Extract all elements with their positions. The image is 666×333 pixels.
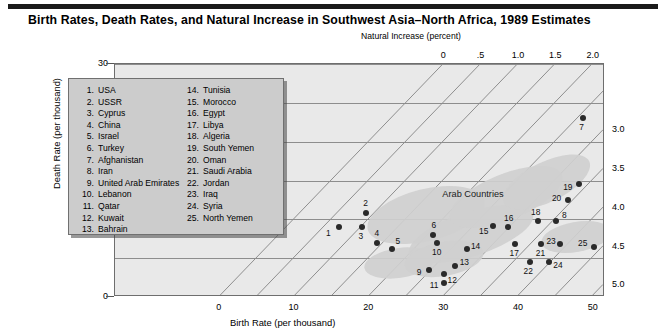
legend-item-number: 10.	[78, 189, 94, 201]
data-point[interactable]	[512, 241, 518, 247]
legend-item-label: United Arab Emirates	[98, 178, 179, 188]
data-point-label: 17	[510, 248, 519, 258]
data-point[interactable]	[535, 218, 541, 224]
legend-item-number: 1.	[78, 85, 94, 97]
legend-item-label: Afghanistan	[98, 155, 143, 165]
data-point[interactable]	[565, 197, 571, 203]
data-point[interactable]	[490, 223, 496, 229]
legend-item: 24.Syria	[183, 201, 254, 213]
data-point[interactable]	[527, 259, 533, 265]
legend-item: 9.United Arab Emirates	[78, 178, 179, 190]
data-point[interactable]	[591, 244, 597, 250]
title-rule	[8, 4, 658, 9]
data-point[interactable]	[538, 241, 544, 247]
legend-item: 16.Egypt	[183, 108, 254, 120]
arab-countries-annotation: Arab Countries	[442, 189, 503, 199]
y-tick-mark	[106, 63, 114, 64]
x-tick-label: 10	[279, 302, 309, 312]
data-point[interactable]	[441, 280, 447, 286]
legend-item: 18.Algeria	[183, 131, 254, 143]
natural-increase-axis-label: Natural Increase (percent)	[0, 31, 666, 41]
data-point[interactable]	[553, 218, 559, 224]
data-point-label: 11	[430, 280, 439, 290]
legend-item-label: Cyprus	[98, 108, 125, 118]
legend-item-number: 24.	[183, 201, 199, 213]
legend-item-number: 6.	[78, 143, 94, 155]
data-point-label: 9	[417, 267, 422, 277]
x-tick-label: 20	[353, 302, 383, 312]
top-tick-label: .5	[468, 50, 494, 60]
data-point[interactable]	[359, 224, 365, 230]
data-point-label: 3	[359, 231, 364, 241]
data-point[interactable]	[374, 240, 380, 246]
legend-item: 25.North Yemen	[183, 213, 254, 225]
data-point[interactable]	[452, 263, 458, 269]
data-point-label: 7	[579, 122, 584, 132]
right-tick-label: 5.0	[612, 279, 625, 289]
data-point[interactable]	[557, 241, 563, 247]
legend-item: 22.Jordan	[183, 178, 254, 190]
data-point[interactable]	[505, 224, 511, 230]
legend-item-label: Qatar	[98, 201, 120, 211]
data-point[interactable]	[576, 181, 582, 187]
data-point-label: 16	[504, 213, 513, 223]
data-point[interactable]	[389, 246, 395, 252]
data-point[interactable]	[336, 224, 342, 230]
data-point-label: 22	[524, 266, 533, 276]
legend-item-label: Syria	[203, 201, 223, 211]
chart-title: Birth Rates, Death Rates, and Natural In…	[28, 13, 591, 27]
legend-item-number: 14.	[183, 85, 199, 97]
data-point[interactable]	[546, 259, 552, 265]
legend-item: 15.Morocco	[183, 97, 254, 109]
top-tick-label: 1.5	[542, 50, 568, 60]
data-point-label: 8	[562, 210, 567, 220]
legend-item-number: 23.	[183, 189, 199, 201]
legend-item-label: Lebanon	[98, 189, 131, 199]
data-point-label: 23	[546, 236, 555, 246]
legend-item-number: 2.	[78, 97, 94, 109]
data-point-label: 14	[471, 241, 480, 251]
legend-item: 21.Saudi Arabia	[183, 166, 254, 178]
legend-item-label: China	[98, 120, 120, 130]
legend-item-label: Saudi Arabia	[203, 166, 252, 176]
legend-item: 13.Bahrain	[78, 224, 179, 236]
legend-item-number: 11.	[78, 201, 94, 213]
legend-item: 17.Libya	[183, 120, 254, 132]
legend-item-label: Algeria	[203, 131, 230, 141]
right-tick-label: 3.5	[612, 163, 625, 173]
legend-item-number: 21.	[183, 166, 199, 178]
data-point[interactable]	[464, 246, 470, 252]
legend-item-label: Tunisia	[203, 85, 230, 95]
legend-item-number: 8.	[78, 166, 94, 178]
data-point[interactable]	[430, 232, 436, 238]
data-point-label: 24	[553, 260, 562, 270]
data-point[interactable]	[441, 271, 447, 277]
top-tick-label: 2.0	[580, 50, 606, 60]
data-point[interactable]	[434, 240, 440, 246]
data-point[interactable]	[363, 210, 369, 216]
legend-item-label: Morocco	[203, 97, 236, 107]
natural-increase-axis-label-text: Natural Increase (percent)	[361, 31, 461, 41]
x-tick-label: 50	[578, 302, 608, 312]
diagonal-line	[592, 284, 603, 296]
x-tick-label: 0	[204, 302, 234, 312]
legend-item-label: USA	[98, 85, 116, 95]
legend-item-label: North Yemen	[203, 213, 253, 223]
legend-column-a: 1.USA2.USSR3.Cyprus4.China5.Israel6.Turk…	[78, 85, 179, 236]
legend-item: 5.Israel	[78, 131, 179, 143]
data-point-label: 19	[563, 182, 572, 192]
legend-item-label: Oman	[203, 155, 226, 165]
legend-item-label: South Yemen	[203, 143, 254, 153]
legend-item-label: Jordan	[203, 178, 229, 188]
legend-item-number: 20.	[183, 155, 199, 167]
data-point-label: 10	[432, 247, 441, 257]
legend-item: 1.USA	[78, 85, 179, 97]
legend-item-label: Turkey	[98, 143, 124, 153]
legend-item-number: 12.	[78, 213, 94, 225]
legend-item-number: 16.	[183, 108, 199, 120]
legend-item-label: Israel	[98, 131, 119, 141]
top-tick-label: 0	[430, 50, 456, 60]
data-point[interactable]	[426, 267, 432, 273]
data-point[interactable]	[580, 115, 586, 121]
legend-item-label: Kuwait	[98, 213, 124, 223]
